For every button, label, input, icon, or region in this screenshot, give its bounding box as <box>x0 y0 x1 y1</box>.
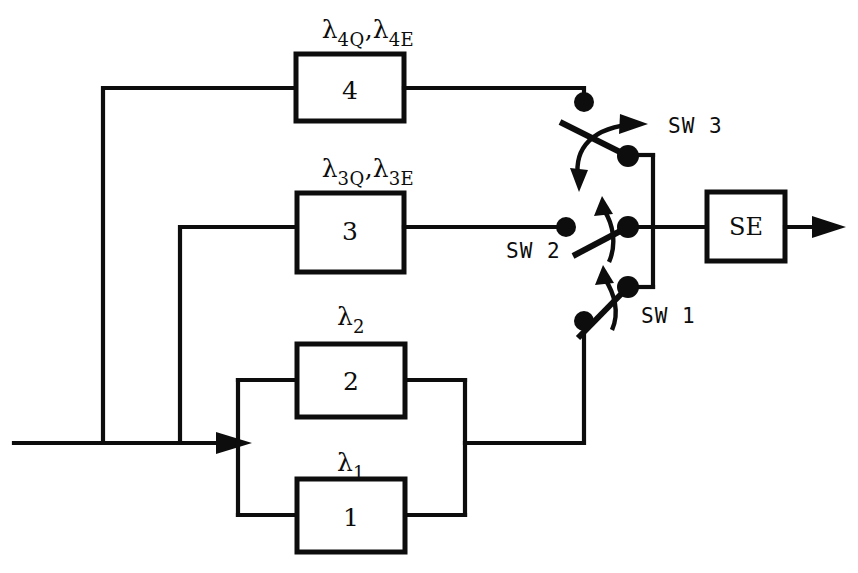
lambda-sub-3a: 3Q <box>338 168 365 189</box>
lambda-symbol-4b: λ <box>373 15 389 44</box>
block-4-label: 4 <box>342 78 358 103</box>
lambda-symbol-4a: λ <box>322 15 338 44</box>
lambda-separator-3: , <box>365 154 373 183</box>
lambda-symbol-3b: λ <box>373 154 389 183</box>
input-arrowhead <box>216 432 252 454</box>
branch-wire-to-block-4 <box>103 88 296 443</box>
lambda-label-block-3: λ3Q,λ3E <box>322 156 414 188</box>
switch-3-throw-arrowhead-upper <box>619 114 648 134</box>
switch-3-label: SW 3 <box>668 116 723 137</box>
lambda-symbol-1: λ <box>337 448 353 477</box>
switch-1-output-terminal-dot[interactable] <box>617 276 639 298</box>
reliability-block-diagram: λ4Q,λ4E λ3Q,λ3E λ2 λ1 4 3 2 1 SE SW 3 SW… <box>0 0 858 573</box>
block-se-group <box>707 192 846 261</box>
lambda-label-block-4: λ4Q,λ4E <box>322 17 414 49</box>
lambda-sub-4a: 4Q <box>338 29 365 50</box>
switch-1-label: SW 1 <box>641 306 696 327</box>
lambda-symbol-3a: λ <box>322 154 338 183</box>
switch-3-throw-arrowhead-lower <box>570 168 588 192</box>
switch-1-throw-arrowhead <box>595 265 614 285</box>
lambda-symbol-2: λ <box>337 302 353 331</box>
block-se-label: SE <box>729 215 763 239</box>
input-wire-group <box>14 432 252 454</box>
block-2-label: 2 <box>343 369 359 394</box>
switch-3-output-terminal-dot[interactable] <box>617 145 639 167</box>
lambda-sub-1: 1 <box>353 462 365 483</box>
diagram-canvas <box>0 0 858 573</box>
se-output-arrowhead <box>812 216 846 238</box>
switch-3-input-terminal-dot[interactable] <box>574 92 594 112</box>
lambda-sub-2: 2 <box>353 316 365 337</box>
parallel-output-wire-to-sw1 <box>465 322 584 443</box>
switch-3-group[interactable] <box>560 92 648 192</box>
lambda-sub-4b: 4E <box>389 29 415 50</box>
block-4-group <box>296 54 584 121</box>
block-1-label: 1 <box>343 505 359 530</box>
lambda-separator-4: , <box>365 15 373 44</box>
switch-1-group[interactable] <box>574 265 639 338</box>
lambda-label-block-1: λ1 <box>337 450 365 482</box>
block-3-label: 3 <box>342 219 358 244</box>
switch-2-group[interactable] <box>556 196 639 262</box>
switch-2-output-terminal-dot[interactable] <box>617 216 639 238</box>
switch-2-throw-arrowhead <box>594 196 613 216</box>
switch-2-label: SW 2 <box>506 241 561 262</box>
block-4-output-wire <box>404 88 584 95</box>
switch-2-input-terminal-dot[interactable] <box>556 217 576 237</box>
lambda-sub-3b: 3E <box>389 168 415 189</box>
lambda-label-block-2: λ2 <box>337 304 365 336</box>
